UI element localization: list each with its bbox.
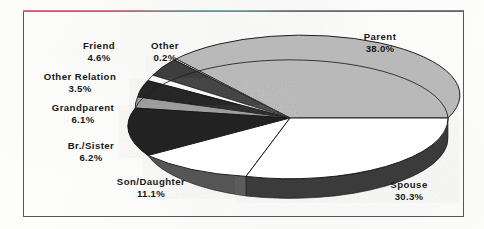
slice-label-other-relation-percent: 3.5%	[24, 83, 136, 95]
slice-label-parent: Parent 38.0%	[344, 31, 416, 55]
slice-label-other-relation-name: Other Relation	[44, 71, 116, 82]
slice-label-grandparent-name: Grandparent	[52, 102, 115, 113]
slice-label-other-percent: 0.2%	[138, 52, 192, 64]
slice-label-other: Other 0.2%	[138, 40, 192, 64]
slice-label-other-relation: Other Relation 3.5%	[24, 71, 136, 95]
slice-label-br-sister-name: Br./Sister	[68, 140, 115, 151]
slice-label-parent-percent: 38.0%	[344, 43, 416, 55]
slice-label-br-sister-percent: 6.2%	[46, 152, 136, 164]
slice-label-other-name: Other	[151, 40, 179, 51]
slice-label-grandparent: Grandparent 6.1%	[30, 102, 136, 126]
slice-label-friend: Friend 4.6%	[62, 40, 136, 64]
slice-label-son-daughter-percent: 11.1%	[108, 188, 194, 200]
slice-label-friend-name: Friend	[83, 40, 115, 51]
slice-label-spouse-name: Spouse	[390, 179, 427, 190]
slice-label-grandparent-percent: 6.1%	[30, 114, 136, 126]
slice-label-son-daughter: Son/Daughter 11.1%	[108, 176, 194, 200]
slice-label-spouse: Spouse 30.3%	[376, 179, 442, 203]
slice-label-br-sister: Br./Sister 6.2%	[46, 140, 136, 164]
slice-label-parent-name: Parent	[364, 31, 397, 42]
slice-label-son-daughter-name: Son/Daughter	[117, 176, 185, 187]
slice-label-friend-percent: 4.6%	[62, 52, 136, 64]
chart-page: Friend 4.6% Other 0.2% Other Relation 3.…	[0, 0, 484, 229]
slice-label-spouse-percent: 30.3%	[376, 191, 442, 203]
